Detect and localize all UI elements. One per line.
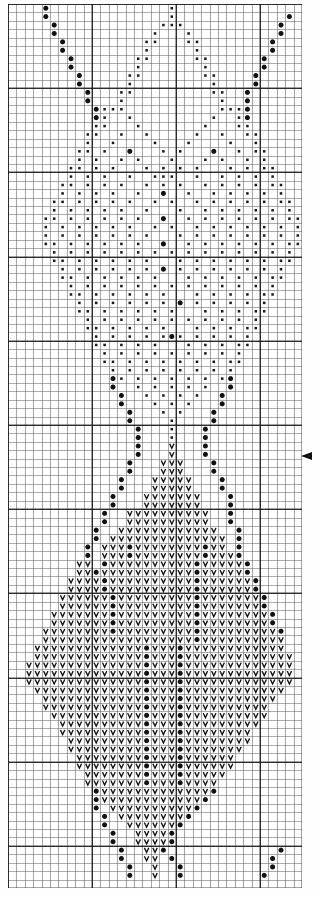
legend-v-stitch-label: V symbol (0, 0, 1, 1)
page-title: Cross Stitch Pattern Chart (0, 21, 1, 22)
triangle-left-icon (301, 452, 312, 460)
stitch-grid-canvas[interactable] (8, 4, 302, 888)
legend-large-dot-label: large filled dot (0, 0, 1, 1)
stitch-grid[interactable] (8, 4, 302, 888)
center-row-marker-icon (301, 449, 314, 462)
legend-small-dot-label: small filled square dot (0, 0, 1, 1)
pattern-chart-canvas: Cross Stitch Pattern Chart large filled … (0, 0, 314, 897)
